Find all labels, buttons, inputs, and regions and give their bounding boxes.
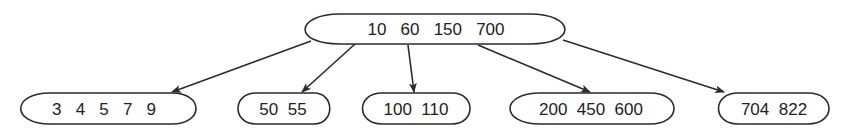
leaf-node-4: 200 450 600 [510, 93, 674, 124]
leaf-node-5: 704 822 [719, 93, 830, 124]
leaf-node-4-keys: 200 450 600 [539, 100, 643, 119]
leaf-node-5-keys: 704 822 [741, 100, 807, 119]
root-node-keys: 10 60 150 700 [367, 20, 504, 39]
edge-root-to-leaf-4 [478, 45, 590, 92]
edge-root-to-leaf-1 [172, 41, 311, 92]
edge-root-to-leaf-2 [302, 44, 355, 92]
leaf-node-3: 100 110 [363, 93, 471, 124]
edges [172, 40, 724, 92]
edge-root-to-leaf-3 [408, 45, 414, 92]
edge-root-to-leaf-5 [563, 40, 724, 92]
leaf-node-2-keys: 50 55 [259, 100, 306, 119]
root-node: 10 60 150 700 [305, 14, 565, 44]
leaf-node-3-keys: 100 110 [384, 100, 449, 119]
leaf-node-1: 3 4 5 7 9 [21, 93, 196, 124]
leaf-node-2: 50 55 [238, 93, 330, 124]
leaf-node-1-keys: 3 4 5 7 9 [52, 100, 156, 119]
b-tree-diagram: 10 60 150 700 3 4 5 7 9 50 55 100 110 20… [0, 0, 848, 137]
